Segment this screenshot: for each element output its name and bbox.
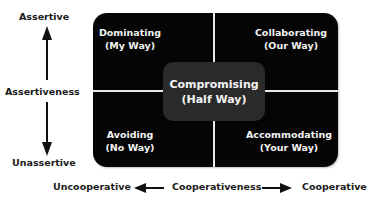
arrow-right-icon bbox=[262, 183, 292, 193]
quadrant-subtitle: (My Way) bbox=[95, 39, 165, 52]
uncooperative-label: Uncooperative bbox=[53, 181, 131, 192]
quadrant-collaborating: Collaborating (Our Way) bbox=[251, 26, 331, 52]
cooperativeness-label: Cooperativeness bbox=[172, 181, 261, 192]
quadrant-subtitle: (Your Way) bbox=[243, 141, 335, 154]
arrow-left-icon bbox=[134, 183, 164, 193]
quadrant-title: Accommodating bbox=[243, 128, 335, 141]
center-compromising: Compromising (Half Way) bbox=[163, 62, 265, 121]
assertive-label: Assertive bbox=[19, 11, 69, 22]
arrow-down-icon bbox=[42, 102, 52, 158]
quadrant-avoiding: Avoiding (No Way) bbox=[95, 128, 165, 154]
cooperative-label: Cooperative bbox=[302, 181, 367, 192]
arrow-up-icon bbox=[42, 26, 52, 82]
quadrant-title: Dominating bbox=[95, 26, 165, 39]
quadrant-accommodating: Accommodating (Your Way) bbox=[243, 128, 335, 154]
conflict-matrix: Dominating (My Way) Collaborating (Our W… bbox=[93, 13, 338, 167]
assertiveness-label: Assertiveness bbox=[5, 86, 80, 97]
center-title: Compromising bbox=[163, 77, 265, 92]
quadrant-subtitle: (No Way) bbox=[95, 141, 165, 154]
quadrant-title: Avoiding bbox=[95, 128, 165, 141]
unassertive-label: Unassertive bbox=[12, 157, 76, 168]
quadrant-dominating: Dominating (My Way) bbox=[95, 26, 165, 52]
quadrant-subtitle: (Our Way) bbox=[251, 39, 331, 52]
quadrant-title: Collaborating bbox=[251, 26, 331, 39]
center-subtitle: (Half Way) bbox=[163, 92, 265, 107]
